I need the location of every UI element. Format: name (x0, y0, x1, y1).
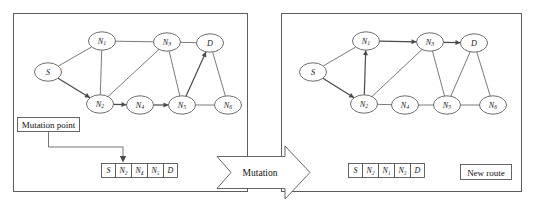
node-right-N5: N5 (434, 96, 461, 114)
mutated-chromosome-cell-label-0: S (354, 166, 358, 175)
mutated-chromosome-strip: SN₂N₁N₃D (349, 164, 425, 178)
node-left-N1: N1 (89, 32, 116, 50)
edge-right-N2-N1 (364, 50, 365, 95)
mutation-arrow-label: Mutation (243, 168, 278, 178)
new-route-callout: New route (461, 165, 512, 180)
edge-left-N6-D (213, 52, 226, 96)
node-left-N2: N2 (87, 95, 114, 113)
edge-right-N3-N5 (432, 51, 444, 96)
node-left-N5: N5 (169, 96, 196, 114)
edge-right-S-N1 (323, 47, 356, 66)
original-chromosome-cell-label-0: S (107, 166, 111, 175)
edge-left-S-N1 (58, 47, 91, 66)
edge-left-N2-N3 (108, 49, 159, 96)
mutated-chromosome-cell-label-2: N₁ (381, 166, 390, 175)
edge-right-S-N2 (323, 78, 354, 98)
node-right-N4: N4 (392, 96, 419, 114)
mutation-diagram: SN1N2N3N4N5N6D SN1N2N3N4N5N6D Mutation p… (0, 0, 535, 212)
node-left-N4: N4 (127, 96, 154, 114)
node-left-S: S (35, 63, 62, 81)
mutated-chromosome-cell-label-3: N₃ (397, 166, 406, 175)
arrowhead-right-N1-N3 (411, 39, 416, 44)
mutated-chromosome-cell-label-1: N₂ (365, 166, 374, 175)
left-graph: SN1N2N3N4N5N6D (35, 32, 242, 114)
edge-left-S-N2 (58, 78, 90, 98)
node-right-N3: N3 (417, 33, 444, 51)
original-chromosome-cell-label-3: N₅ (150, 166, 159, 175)
original-chromosome-cell-label-1: N₂ (118, 166, 127, 175)
mutated-chromosome-cell-label-4: D (414, 166, 421, 175)
arrowhead-left-N4-N5 (164, 103, 169, 108)
edge-right-N5-D (451, 52, 470, 96)
figure-canvas: SN1N2N3N4N5N6D SN1N2N3N4N5N6D Mutation p… (0, 0, 535, 212)
edge-right-N6-D (477, 52, 490, 96)
original-chromosome-cell-label-4: D (167, 166, 174, 175)
arrowhead-right-N3-D (455, 40, 460, 45)
node-right-N6: N6 (480, 96, 507, 114)
node-right-N1: N1 (353, 32, 380, 50)
arrowhead-left-N2-N4 (121, 102, 126, 107)
edge-left-N3-N5 (169, 51, 180, 96)
mutation-point-label: Mutation point (22, 120, 76, 130)
mutation-point-arrowhead (120, 156, 126, 163)
original-chromosome-strip: SN₂N₄N₅D (102, 164, 178, 178)
mutation-point-connector (49, 132, 124, 158)
node-left-D: D (197, 34, 224, 52)
node-left-N3: N3 (154, 33, 181, 51)
node-left-N6: N6 (215, 96, 242, 114)
mutation-point-callout: Mutation point (18, 118, 127, 163)
edge-left-N1-N3 (115, 41, 153, 42)
new-route-label: New route (467, 168, 505, 178)
node-right-D: D (461, 34, 488, 52)
edge-right-N2-N3 (372, 49, 422, 96)
node-right-S: S (300, 63, 327, 81)
edge-left-N5-D (186, 52, 206, 96)
right-graph: SN1N2N3N4N5N6D (300, 32, 507, 114)
original-chromosome-cell-label-2: N₄ (134, 166, 143, 175)
edge-right-N1-N3 (379, 41, 416, 42)
edge-left-N1-N2 (100, 50, 101, 95)
arrowhead-right-N2-N1 (363, 50, 368, 55)
node-right-N2: N2 (351, 95, 378, 113)
